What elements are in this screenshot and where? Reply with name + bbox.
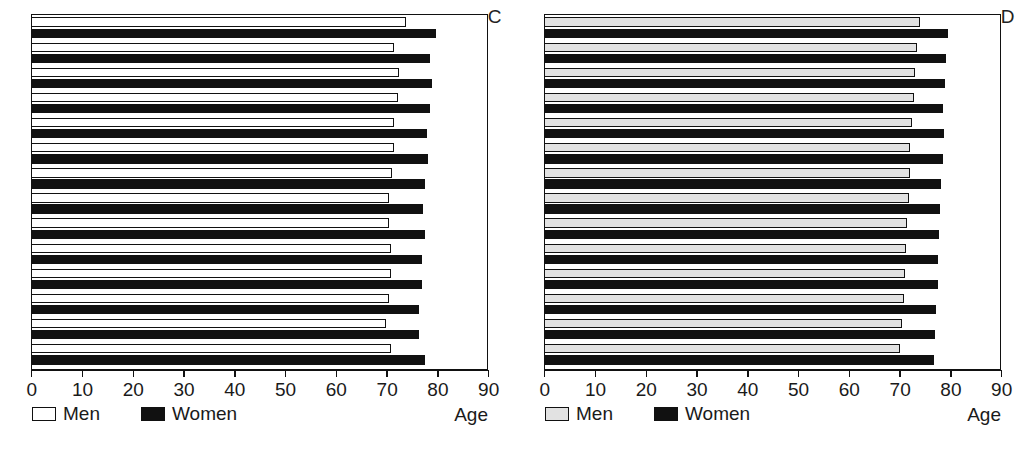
bar-women [31,204,423,213]
bar-women [544,230,939,239]
bar-row-group [544,91,1001,116]
bar-men [544,93,914,102]
x-axis-tick-label: 70 [890,379,911,401]
bar-row-group [544,292,1001,317]
bar-women [31,305,419,314]
bar-women [544,204,940,213]
bar-row-group [31,292,488,317]
x-axis-line-c [31,369,488,371]
bar-row-group [31,318,488,343]
bar-row-group [544,16,1001,41]
x-axis-line-d [544,369,1001,371]
x-axis-tick-label: 80 [427,379,448,401]
bar-women [544,355,934,364]
bar-row-group [544,142,1001,167]
legend-swatch-men-icon [545,407,569,421]
legend-label-women: Women [172,404,237,423]
bar-row-group [31,192,488,217]
axis-title-d: Age [967,404,1001,426]
bar-row-group [544,217,1001,242]
legend-label-women: Women [685,404,750,423]
x-axis-tick-label: 80 [940,379,961,401]
x-axis-tick-label: 70 [377,379,398,401]
bar-row-group [31,343,488,368]
bar-row-group [544,318,1001,343]
bar-men [544,43,917,52]
bar-women [31,79,432,88]
bar-men [31,17,406,26]
bar-women [544,154,943,163]
bar-row-group [544,343,1001,368]
legend-label-men: Men [63,404,100,423]
bar-women [31,54,430,63]
bar-women [31,154,428,163]
bar-row-group [31,16,488,41]
legend-c: Men Women Age [31,404,488,428]
bar-row-group [544,66,1001,91]
x-axis-tick-label: 10 [72,379,93,401]
bar-row-group [544,192,1001,217]
bar-women [544,255,938,264]
bar-men [544,118,912,127]
x-axis-tick [82,370,83,377]
bar-women [544,280,938,289]
bar-men [544,244,906,253]
bar-women [544,29,948,38]
bar-women [544,79,945,88]
panel-d: D Men Women Age 0102030405060708090 [513,0,1025,449]
bar-row-group [544,267,1001,292]
bar-men [544,218,907,227]
legend-item-men-c: Men [32,404,100,423]
x-axis-tick-label: 40 [224,379,245,401]
legend-d: Men Women Age [544,404,1001,428]
bar-men [31,93,398,102]
bar-row-group [31,142,488,167]
bar-row-group [31,242,488,267]
x-axis-tick [747,370,748,377]
bar-row-group [31,217,488,242]
bar-men [31,244,391,253]
x-axis-tick-label: 60 [326,379,347,401]
x-axis-tick-label: 10 [585,379,606,401]
x-axis-tick-label: 30 [173,379,194,401]
legend-swatch-women-icon [654,407,678,421]
bar-women [31,129,427,138]
x-axis-tick [950,370,951,377]
bar-row-group [31,66,488,91]
x-axis-tick [899,370,900,377]
x-axis-tick-label: 50 [788,379,809,401]
bar-women [31,104,430,113]
x-axis-tick [646,370,647,377]
x-axis-tick [386,370,387,377]
bar-women [544,104,943,113]
panel-c: C Men Women Age 0102030405060708090 [0,0,512,449]
x-axis-tick-label: 50 [275,379,296,401]
bar-men [544,168,910,177]
legend-item-women-c: Women [141,404,237,423]
x-axis-tick-label: 0 [26,379,37,401]
bar-row-group [31,91,488,116]
legend-item-men-d: Men [545,404,613,423]
x-axis-tick [595,370,596,377]
x-axis-tick [133,370,134,377]
bar-row-group [544,242,1001,267]
bar-row-group [544,41,1001,66]
legend-swatch-women-icon [141,407,165,421]
age-bar-chart-figure: C Men Women Age 0102030405060708090 D Me… [0,0,1025,449]
panel-label-c: C [488,6,502,28]
axis-title-c: Age [454,404,488,426]
bars-area-c [31,16,488,368]
x-axis-tick-label: 40 [737,379,758,401]
bars-area-d [544,16,1001,368]
x-axis-tick [31,370,32,377]
bar-women [31,29,436,38]
legend-item-women-d: Women [654,404,750,423]
bar-men [31,319,386,328]
bar-row-group [31,41,488,66]
x-axis-tick [696,370,697,377]
bar-women [31,179,425,188]
x-axis-tick [285,370,286,377]
bar-row-group [544,117,1001,142]
bar-women [31,230,425,239]
x-axis-tick [183,370,184,377]
